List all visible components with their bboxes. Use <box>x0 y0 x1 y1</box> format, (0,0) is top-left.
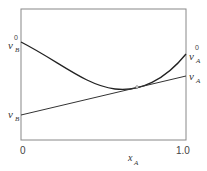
tangent-point <box>136 86 139 89</box>
label-vB: v B <box>8 108 20 123</box>
svg-text:A: A <box>133 159 139 167</box>
plot-frame <box>21 9 186 140</box>
tangent-line <box>21 76 186 115</box>
x-tick-0: 0 <box>20 145 26 156</box>
svg-text:B: B <box>15 46 20 54</box>
svg-text:v: v <box>189 70 194 82</box>
label-vB0: v B 0 <box>8 34 20 54</box>
svg-text:v: v <box>189 50 194 62</box>
svg-text:v: v <box>8 39 13 51</box>
svg-text:A: A <box>195 77 201 85</box>
label-vA: v A <box>189 70 201 85</box>
svg-text:0: 0 <box>195 44 199 51</box>
svg-text:v: v <box>8 108 13 120</box>
svg-text:0: 0 <box>14 34 18 41</box>
svg-text:x: x <box>127 152 133 163</box>
diagram-canvas: v B 0 v B v A 0 v A 0 1.0 x A <box>0 0 207 171</box>
x-tick-1: 1.0 <box>176 145 190 156</box>
svg-text:A: A <box>195 57 201 65</box>
x-axis-label: x A <box>127 152 139 167</box>
svg-text:B: B <box>15 115 20 123</box>
label-vA0: v A 0 <box>189 44 201 65</box>
